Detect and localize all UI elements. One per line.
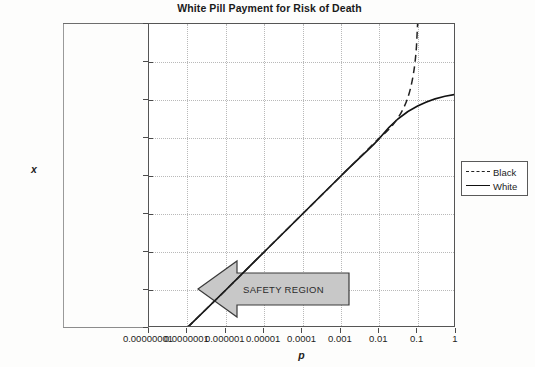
x-axis-labels: 0.00000001 0.0000001 0.000001 0.00001 0.…	[0, 0, 535, 367]
legend-item-black: Black	[465, 165, 524, 179]
legend: Black White	[461, 161, 528, 196]
x-axis-tick-label: 1	[452, 333, 457, 344]
legend-solid-line-icon	[465, 181, 491, 191]
legend-item-white: White	[465, 179, 524, 193]
legend-label: White	[491, 181, 517, 192]
x-axis-tick-label: 0.00001	[246, 333, 280, 344]
legend-dashed-line-icon	[465, 167, 491, 177]
x-axis-tick-label: 0.0000001	[164, 333, 209, 344]
x-axis-tick-label: 0.000001	[205, 333, 245, 344]
x-axis-tick-label: 0.01	[369, 333, 388, 344]
chart-figure: White Pill Payment for Risk of Death	[0, 0, 535, 367]
x-axis-tick-label: 0.0001	[287, 333, 316, 344]
x-axis-title: p	[148, 349, 455, 361]
x-axis-tick-label: 0.001	[328, 333, 352, 344]
x-axis-tick-label: 0.1	[410, 333, 423, 344]
legend-label: Black	[491, 167, 516, 178]
